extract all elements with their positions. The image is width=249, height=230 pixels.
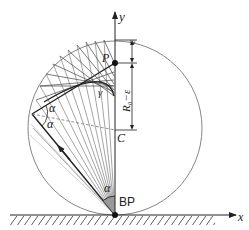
dimension-lines	[115, 40, 137, 130]
angle-alpha-bp: α	[104, 182, 110, 194]
caustic-label: γ	[98, 87, 102, 98]
epsilon-label: ε	[126, 40, 137, 44]
x-axis-label: x	[238, 211, 243, 223]
point-bp	[112, 212, 118, 218]
angle-alpha-upper: α	[49, 102, 55, 114]
ray-direction-arrow	[58, 146, 70, 161]
point-bp-label: BP	[119, 196, 135, 208]
r0-minus-epsilon-label: R₀−ε	[121, 90, 132, 112]
diagram-canvas: y x P C BP γ α α α ε R₀−ε	[0, 0, 249, 230]
ground-hatch	[10, 216, 215, 225]
y-axis-label: y	[119, 10, 125, 23]
angle-alpha-lower: α	[47, 118, 53, 130]
point-p-label: P	[102, 52, 109, 64]
normal-line	[32, 114, 115, 130]
incident-ray	[32, 114, 115, 215]
point-c-label: C	[117, 132, 125, 144]
